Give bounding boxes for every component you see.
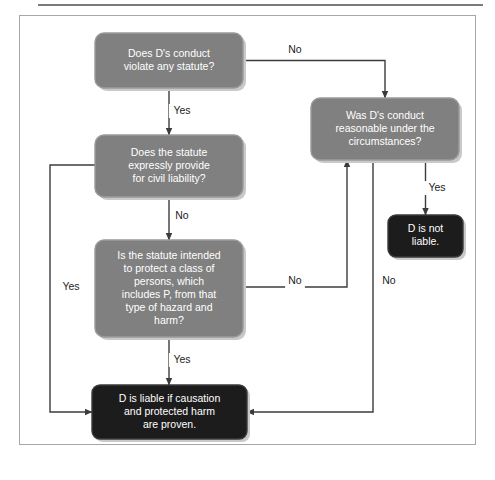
edge-label-text: Yes: [62, 280, 79, 292]
node-text-line: Does D's conduct: [128, 47, 210, 59]
node-text-line: circumstances?: [349, 135, 422, 147]
node-text-line: expressly provide: [128, 159, 210, 171]
edge-label-e2: No: [285, 43, 305, 57]
node-text-line: type of hazard and: [126, 301, 213, 313]
edge-label-text: Yes: [173, 104, 190, 116]
node-text-line: D is liable if causation: [119, 392, 221, 404]
node-text-line: harm?: [154, 314, 184, 326]
flowchart-page: Does D's conductviolate any statute?Does…: [0, 0, 495, 480]
flow-node-n2: Does the statuteexpressly providefor civ…: [95, 135, 246, 200]
node-text-line: to protect a class of: [123, 262, 214, 274]
node-layer: Does D's conductviolate any statute?Does…: [92, 33, 466, 442]
node-text-line: for civil liability?: [133, 172, 206, 184]
edge-label-text: Yes: [173, 353, 190, 365]
flowchart-canvas: Does D's conductviolate any statute?Does…: [0, 0, 495, 480]
edge-label-text: No: [382, 274, 396, 286]
edge-label-text: No: [288, 274, 302, 286]
flow-node-n5: D is notliable.: [388, 215, 466, 260]
node-text-line: Does the statute: [131, 146, 208, 158]
flow-node-n6: D is liable if causationand protected ha…: [92, 385, 250, 442]
edge-label-e1: Yes: [169, 104, 195, 118]
edge-label-e8: No: [379, 274, 399, 288]
flow-node-n4: Was D's conductreasonable under thecircu…: [311, 98, 462, 163]
node-text-line: Was D's conduct: [346, 109, 424, 121]
node-text-line: persons, which: [134, 275, 204, 287]
edge-label-e4: Yes: [58, 280, 84, 294]
edge-label-text: Yes: [428, 181, 445, 193]
node-text-line: liable.: [412, 235, 439, 247]
edge-label-e5: Yes: [169, 353, 195, 367]
node-text-line: D is not: [408, 222, 444, 234]
connector-e6: [243, 160, 347, 287]
connector-e2: [243, 61, 385, 99]
node-text-line: Is the statute intended: [117, 249, 220, 261]
edge-label-e6: No: [285, 274, 305, 288]
node-text-line: includes P, from that: [122, 288, 216, 300]
edge-label-text: No: [175, 209, 189, 221]
flow-node-n3: Is the statute intendedto protect a clas…: [95, 240, 246, 340]
edge-label-text: No: [288, 43, 302, 55]
connector-e8: [247, 160, 373, 412]
node-text-line: violate any statute?: [124, 60, 215, 72]
node-text-line: reasonable under the: [335, 122, 434, 134]
node-text-line: are proven.: [143, 418, 196, 430]
flow-node-n1: Does D's conductviolate any statute?: [95, 33, 246, 91]
edge-label-e3: No: [172, 209, 192, 223]
edge-label-e7: Yes: [424, 181, 450, 195]
node-text-line: and protected harm: [124, 405, 215, 417]
